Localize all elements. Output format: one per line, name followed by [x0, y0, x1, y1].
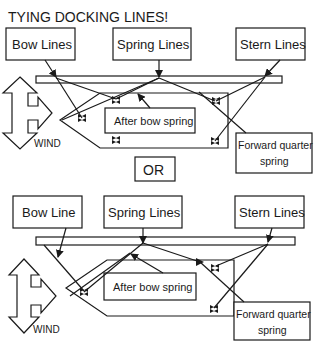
dock [36, 237, 295, 245]
dock [36, 76, 282, 83]
wind-label: WIND [33, 324, 60, 335]
page-title: TYING DOCKING LINES! [8, 9, 168, 25]
forward-quarter-spring-label-line1: Forward quarter [238, 139, 313, 151]
docking-lines-diagram: TYING DOCKING LINES! [0, 0, 318, 345]
wind-direction-icon [9, 259, 56, 333]
forward-quarter-spring-label-line2: spring [258, 324, 287, 336]
after-bow-spring-label: After bow spring [113, 281, 192, 293]
forward-quarter-spring-label-line2: spring [260, 155, 289, 167]
spring-lines-label: Spring Lines [117, 37, 190, 52]
stern-lines-label: Stern Lines [239, 205, 305, 220]
spring-lines-label: Spring Lines [108, 205, 181, 220]
after-bow-spring-label: After bow spring [114, 115, 193, 127]
bow-line-label: Bow Line [22, 205, 75, 220]
wind-label: WIND [34, 138, 61, 149]
cleat-icon [112, 136, 120, 144]
forward-quarter-spring-label-line1: Forward quarter [236, 308, 311, 320]
bow-lines-label: Bow Lines [12, 37, 72, 52]
or-label: OR [143, 162, 164, 178]
cleat-icon [211, 264, 219, 272]
cleat-icon [210, 305, 218, 313]
stern-lines-label: Stern Lines [240, 37, 306, 52]
